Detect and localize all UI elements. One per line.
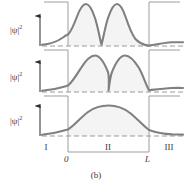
- psi-exponent-n2: 2: [19, 71, 22, 77]
- psi-exponent-n3: 2: [19, 24, 22, 30]
- panel-n3: [40, 2, 183, 46]
- y-axis-label-n2: |ψ|2: [10, 73, 22, 82]
- wavefunction-probability-density-figure: [0, 0, 192, 190]
- figure-caption: (b): [0, 171, 192, 180]
- region-label-II: II: [96, 143, 120, 152]
- y-axis-label-n3: |ψ|2: [10, 26, 22, 35]
- psi-symbol-n3: |ψ|: [10, 25, 19, 35]
- x-axis-tick-zero: 0: [64, 155, 69, 164]
- curve-fill-n1: [68, 106, 149, 137]
- psi-symbol-n2: |ψ|: [10, 72, 19, 82]
- psi-symbol-n1: |ψ|: [10, 116, 19, 126]
- region-label-I: I: [34, 143, 58, 152]
- x-axis-tick-L: L: [145, 155, 150, 164]
- y-axis-label-n1: |ψ|2: [10, 117, 22, 126]
- panel-n2: [40, 50, 183, 92]
- psi-exponent-n1: 2: [19, 115, 22, 121]
- region-label-III: III: [157, 143, 181, 152]
